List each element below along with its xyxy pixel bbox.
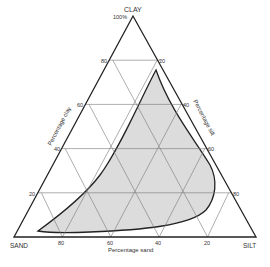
silt-tick-20: 20 (159, 58, 165, 64)
sand-tick-60: 60 (107, 240, 113, 246)
silt-tick-80: 80 (233, 191, 239, 197)
clay-tick-60: 60 (77, 102, 83, 108)
silt-tick-60: 60 (208, 146, 214, 152)
vertex-label-clay: CLAY (124, 6, 142, 13)
clay-axis-title: Percentage clay (47, 106, 72, 147)
silt-axis-title: Percentage silt (192, 99, 216, 137)
silt-tick-40: 40 (183, 102, 189, 108)
shaded-region (38, 70, 215, 233)
clay-tick-20: 20 (29, 191, 35, 197)
clay-tick-80: 80 (101, 58, 107, 64)
vertex-sublabel-clay: 100% (113, 14, 127, 20)
sand-tick-40: 40 (155, 240, 161, 246)
ternary-diagram: CLAY 100% SAND SILT 80 60 40 20 Percenta… (0, 0, 270, 267)
sand-tick-80: 80 (58, 240, 64, 246)
sand-tick-20: 20 (204, 240, 210, 246)
sand-axis-title: Percentage sand (108, 247, 153, 253)
vertex-label-silt: SILT (243, 242, 256, 249)
vertex-label-sand: SAND (10, 242, 28, 249)
clay-tick-40: 40 (54, 146, 60, 152)
